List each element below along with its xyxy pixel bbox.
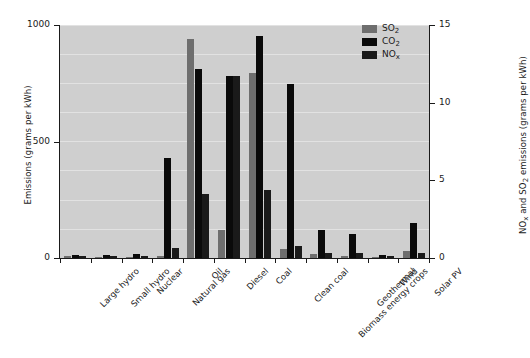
legend-label: SO2 xyxy=(382,24,399,33)
y-axis-right-title: NOx and SO2 emissions (grams per kWh) xyxy=(518,30,528,260)
gridline xyxy=(60,170,429,171)
y-tick-label-right: 15 xyxy=(439,19,450,29)
legend-swatch-icon xyxy=(362,25,377,33)
bar-co2-solar-pv xyxy=(410,223,417,258)
x-category-label: Solar PV xyxy=(432,266,464,298)
bar-nox-clean-coal xyxy=(295,246,302,258)
x-category-label: Clean coal xyxy=(312,266,350,304)
bar-co2-natural-gas xyxy=(164,158,171,258)
legend-swatch-icon xyxy=(362,51,377,59)
x-tick xyxy=(183,258,184,263)
gridline xyxy=(60,83,429,84)
legend: SO2CO2NOx xyxy=(362,22,400,61)
legend-swatch-icon xyxy=(362,38,377,46)
bar-co2-coal xyxy=(256,36,263,259)
legend-label: CO2 xyxy=(382,37,400,46)
bar-so2-clean-coal xyxy=(280,249,287,258)
bar-so2-coal xyxy=(249,73,256,258)
x-tick xyxy=(152,258,153,263)
x-category-label: Biomass energy crops xyxy=(357,266,430,339)
legend-item-co2: CO2 xyxy=(362,35,400,48)
x-tick xyxy=(398,258,399,263)
y-tick-label-right: 5 xyxy=(439,174,445,184)
bar-co2-biomass-energy-crops xyxy=(318,230,325,258)
y-tick-label-right: 10 xyxy=(439,97,450,107)
x-tick xyxy=(214,258,215,263)
y-tick-label-left: 0 xyxy=(10,252,50,262)
x-category-label: Diesel xyxy=(245,266,271,292)
y-tick-right xyxy=(429,180,435,181)
x-tick xyxy=(60,258,61,263)
bar-nox-oil xyxy=(202,194,209,258)
legend-item-so2: SO2 xyxy=(362,22,400,35)
y-tick-right xyxy=(429,25,435,26)
x-tick xyxy=(337,258,338,263)
x-tick xyxy=(91,258,92,263)
y-tick-label-left: 1000 xyxy=(10,19,50,29)
y-tick-left xyxy=(54,142,60,143)
gridline xyxy=(60,229,429,230)
bar-so2-solar-pv xyxy=(403,251,410,258)
bar-co2-oil xyxy=(195,69,202,258)
y-axis-right-line xyxy=(429,25,430,259)
y-tick-right xyxy=(429,103,435,104)
legend-label: NOx xyxy=(382,50,400,59)
x-tick xyxy=(429,258,430,263)
x-tick xyxy=(245,258,246,263)
bar-nox-coal xyxy=(264,190,271,258)
y-tick-left xyxy=(54,25,60,26)
bar-nox-natural-gas xyxy=(172,248,179,258)
bar-co2-geothermal xyxy=(349,234,356,258)
y-tick-label-right: 0 xyxy=(439,252,445,262)
x-tick xyxy=(368,258,369,263)
legend-item-nox: NOx xyxy=(362,48,400,61)
x-tick xyxy=(122,258,123,263)
bar-co2-clean-coal xyxy=(287,84,294,258)
bar-so2-diesel xyxy=(218,230,225,258)
x-tick xyxy=(275,258,276,263)
gridline xyxy=(60,112,429,113)
gridline xyxy=(60,141,429,142)
x-tick xyxy=(306,258,307,263)
y-tick-label-left: 500 xyxy=(10,136,50,146)
bar-nox-diesel xyxy=(233,76,240,258)
bar-co2-diesel xyxy=(226,76,233,258)
bar-so2-oil xyxy=(187,39,194,258)
x-category-label: Coal xyxy=(273,266,293,286)
gridline xyxy=(60,200,429,201)
